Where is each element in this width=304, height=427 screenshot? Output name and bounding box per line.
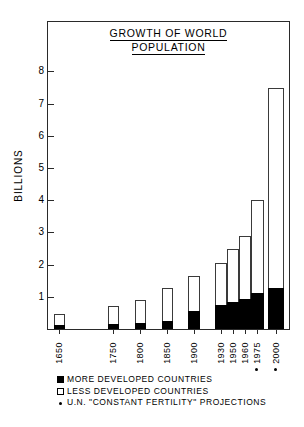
y-tick-7 [48,104,54,105]
bar-1750 [108,306,119,329]
y-tick-5 [48,168,54,169]
y-tick-label-8: 8 [26,66,44,76]
x-tick-label-text: 1950 [228,336,238,370]
x-tick-label-text: 1850 [162,336,172,370]
x-axis-line [47,329,290,330]
y-tick-8 [48,71,54,72]
bar-2000 [268,88,284,330]
y-tick-4 [48,200,54,201]
chart-title-line-1: GROWTH OF WORLD [110,27,228,41]
y-tick-2 [48,265,54,266]
x-tick-label-1800: 1800 [135,336,145,370]
y-tick-label-4: 4 [26,195,44,205]
x-tick-1975 [257,330,258,334]
y-axis-line [47,21,48,330]
x-tick-label-text: 1800 [135,336,145,370]
bar-segment-more-developed [135,323,146,329]
x-tick-label-text: 2000 [271,336,281,370]
bar-1930 [215,263,227,329]
x-tick-label-text: 1930 [216,336,226,370]
y-tick-label-text: 4 [30,195,44,205]
bar-segment-more-developed [239,299,251,329]
y-tick-label-text: 7 [30,99,44,109]
x-tick-label-text: 1960 [240,336,250,370]
chart-title: GROWTH OF WORLD POPULATION [47,27,290,55]
legend-label-less-developed: LESS DEVELOPED COUNTRIES [67,386,209,398]
y-tick-label-text: 8 [30,66,44,76]
y-tick-label-text: 1 [30,292,44,302]
y-tick-3 [48,232,54,233]
x-tick-label-1930: 1930 [216,336,226,370]
x-tick-1960 [245,330,246,334]
x-tick-label-1960: 1960 [240,336,250,370]
x-tick-label-text: 1900 [189,336,199,370]
y-axis-title: BILLIONS [13,131,24,221]
filled-square-icon [57,376,64,383]
y-tick-label-text: 6 [30,131,44,141]
bar-1950 [227,249,239,330]
legend-label-more-developed: MORE DEVELOPED COUNTRIES [67,374,212,386]
bar-1850 [162,288,173,329]
open-square-icon [57,388,64,395]
x-tick-label-text: 1650 [54,336,64,370]
y-tick-1 [48,297,54,298]
bar-1900 [188,276,200,329]
bar-segment-more-developed [162,321,173,329]
x-tick-label-1750: 1750 [108,336,118,370]
bar-1975 [251,200,264,329]
x-tick-label-text: 1975 [252,336,262,370]
legend-label-projections: U.N. "CONSTANT FERTILITY" PROJECTIONS [67,397,266,409]
x-tick-1900 [194,330,195,334]
y-tick-label-5: 5 [26,163,44,173]
bar-1960 [239,236,251,329]
y-tick-label-text: 2 [30,260,44,270]
bar-segment-more-developed [108,324,119,329]
legend-item-projections: U.N. "CONSTANT FERTILITY" PROJECTIONS [57,397,266,409]
projection-dot-icon [255,368,258,371]
x-tick-label-1975: 1975 [252,336,262,370]
bar-segment-more-developed [215,305,227,329]
y-tick-label-1: 1 [26,292,44,302]
x-tick-label-1650: 1650 [54,336,64,370]
x-tick-label-1900: 1900 [189,336,199,370]
y-tick-label-7: 7 [26,99,44,109]
dot-icon [57,399,64,406]
x-tick-2000 [276,330,277,334]
x-tick-label-2000: 2000 [271,336,281,370]
x-tick-label-1950: 1950 [228,336,238,370]
bar-1650 [54,314,65,329]
x-tick-1930 [221,330,222,334]
bar-segment-more-developed [268,288,284,329]
x-tick-1750 [113,330,114,334]
y-tick-label-3: 3 [26,227,44,237]
y-tick-label-2: 2 [26,260,44,270]
chart-title-line-2: POPULATION [132,41,206,55]
x-tick-label-text: 1750 [108,336,118,370]
chart-legend: MORE DEVELOPED COUNTRIES LESS DEVELOPED … [57,374,266,409]
bar-segment-more-developed [251,293,264,329]
legend-item-less-developed: LESS DEVELOPED COUNTRIES [57,386,266,398]
x-tick-1650 [59,330,60,334]
bar-segment-more-developed [188,311,200,329]
x-tick-label-1850: 1850 [162,336,172,370]
x-tick-1800 [140,330,141,334]
bar-1800 [135,300,146,329]
legend-item-more-developed: MORE DEVELOPED COUNTRIES [57,374,266,386]
x-tick-1850 [167,330,168,334]
projection-dot-icon [274,368,277,371]
y-tick-label-text: 5 [30,163,44,173]
y-tick-6 [48,136,54,137]
y-tick-label-text: 3 [30,227,44,237]
bar-segment-more-developed [54,325,65,329]
y-tick-label-6: 6 [26,131,44,141]
bar-segment-more-developed [227,302,239,329]
x-tick-1950 [233,330,234,334]
